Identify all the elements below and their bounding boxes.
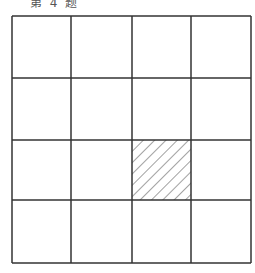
grid-lines [12, 16, 251, 263]
grid-diagram [0, 0, 255, 273]
shaded-cell [132, 140, 191, 200]
